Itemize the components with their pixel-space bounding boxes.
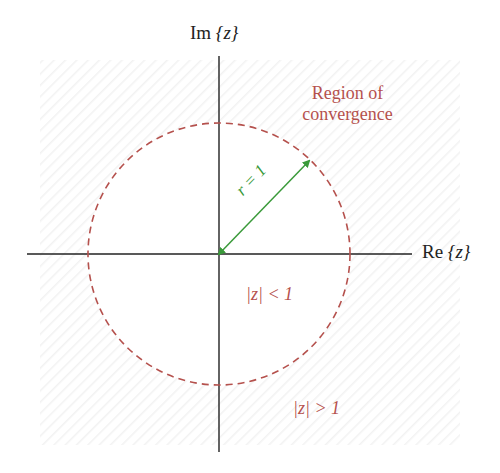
inside-label-text: |z| < 1	[246, 284, 293, 304]
inside-region-label: |z| < 1	[246, 284, 293, 305]
re-arg: {z}	[448, 241, 471, 262]
roc-label: Region of convergence	[280, 83, 415, 125]
imaginary-axis-label: Im {z}	[190, 22, 238, 44]
im-text: Im	[190, 22, 211, 43]
outside-region-label: |z| > 1	[293, 398, 340, 419]
real-axis-label: Re {z}	[422, 241, 470, 263]
im-arg: {z}	[216, 22, 239, 43]
roc-label-line1: Region of	[280, 83, 415, 104]
outside-label-text: |z| > 1	[293, 398, 340, 418]
re-text: Re	[422, 241, 443, 262]
z-plane-diagram	[0, 0, 500, 473]
roc-label-line2: convergence	[280, 104, 415, 125]
